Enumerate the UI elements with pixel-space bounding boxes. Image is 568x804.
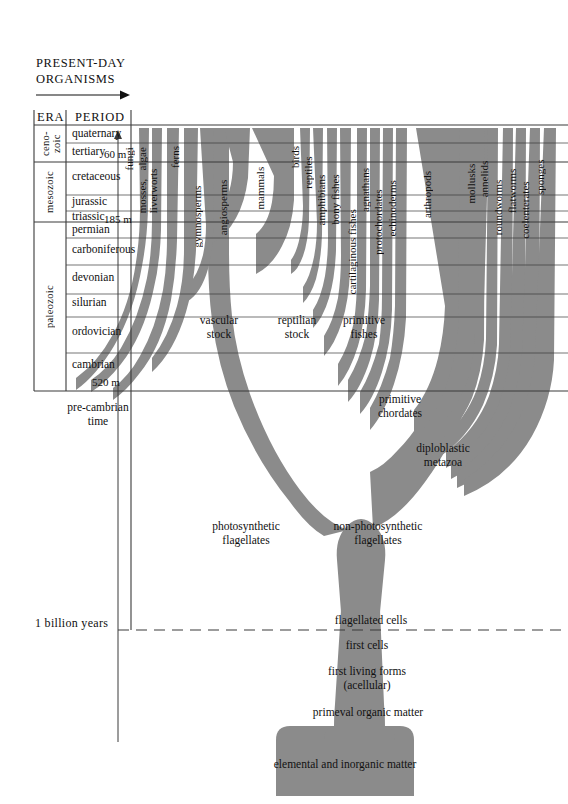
period-label-cambrian: cambrian xyxy=(72,358,115,370)
organism-label-mollusks: mollusks xyxy=(466,164,477,204)
inner-label-elemental-inorganic-matter: elemental and inorganic matter xyxy=(245,757,445,771)
era-label-cenozoic: ceno-​zoic xyxy=(40,127,62,161)
period-label-triassic: triassic xyxy=(72,210,105,222)
period-label-ordovician: ordovician xyxy=(72,325,121,337)
period-label-permian: permian xyxy=(72,223,110,235)
organism-label-fungi: fungi xyxy=(124,147,135,170)
period-label-silurian: silurian xyxy=(72,296,107,308)
organism-label-mammals: mammals xyxy=(255,167,266,210)
one-billion-years-label: 1 billion years xyxy=(35,616,108,631)
period-age-cambrian: 520 m xyxy=(92,376,120,388)
organism-label-cartilaginous-fishes: cartilaginous fishes xyxy=(347,209,358,294)
page-title-line2: ORGANISMS xyxy=(36,72,115,87)
organism-label-birds: birds xyxy=(290,146,301,168)
inner-label-first-living-forms: first living forms(acellular) xyxy=(307,664,427,692)
era-label-paleozoic: paleozoic xyxy=(44,225,58,389)
page-title: PRESENT-DAY xyxy=(36,56,126,71)
organism-label-bony-fishes: bony fishes xyxy=(330,174,341,224)
period-label-cretaceous: cretaceous xyxy=(72,170,121,182)
organism-label-algae: algae xyxy=(137,147,148,170)
period-label-jurassic: jurassic xyxy=(72,195,107,207)
organism-label-ferns: ferns xyxy=(170,146,181,168)
precambrian-label: pre-cambriantime xyxy=(38,400,158,428)
organism-label-arthropods: arthropods xyxy=(422,171,433,218)
era-label-mesozoic: mesozoic xyxy=(44,164,58,220)
organism-label-agnathans: agnathans xyxy=(360,168,371,212)
inner-label-primitive-fishes: primitivefishes xyxy=(333,313,395,341)
period-label-quaternary: quaternary xyxy=(72,127,121,139)
era-column-header: ERA xyxy=(37,110,64,125)
period-label-devonian: devonian xyxy=(72,271,114,283)
organism-label-coelenterates: coelenterates xyxy=(520,181,531,238)
period-label-carboniferous: carboniferous xyxy=(72,243,135,255)
inner-label-reptilian-stock: reptilianstock xyxy=(266,313,328,341)
present-day-arrow xyxy=(36,91,130,100)
organism-label-echinoderms: echinoderms xyxy=(387,180,398,236)
inner-label-first-cells: first cells xyxy=(332,638,402,652)
organism-label-roundworms: roundworms xyxy=(493,180,504,236)
organism-label-amphibians: amphibians xyxy=(316,175,327,226)
inner-label-diploblastic-metazoa: diploblasticmetazoa xyxy=(400,441,486,469)
organism-label-angiosperms: angiosperms xyxy=(218,180,229,236)
inner-label-vascular-stock: vascularstock xyxy=(188,313,250,341)
organism-label-flatworms: flatworms xyxy=(507,169,518,214)
period-column-header: PERIOD xyxy=(75,110,125,125)
inner-label-primeval-organic-matter: primeval organic matter xyxy=(290,705,446,719)
period-label-tertiary: tertiary xyxy=(72,145,105,157)
organism-label-gymnosperms: gymnosperms xyxy=(192,186,203,248)
evolution-tree-diagram: PRESENT-DAY ORGANISMS ERA PERIOD ceno-​z… xyxy=(0,0,568,804)
organism-label-reptiles: reptiles xyxy=(303,156,314,188)
inner-label-nonphotosynthetic-flagellates: non-photosyntheticflagellates xyxy=(313,519,443,547)
inner-label-primitive-chordates: primitivechordates xyxy=(355,392,445,420)
inner-label-photosynthetic-flagellates: photosyntheticflagellates xyxy=(192,519,300,547)
inner-label-flagellated-cells: flagellated cells xyxy=(323,613,419,627)
organism-label-annelids: annelids xyxy=(479,161,490,198)
organism-label-sponges: sponges xyxy=(535,159,546,194)
organism-label-mosses-liverworts: mosses,liverworts xyxy=(137,169,161,214)
organism-label-protochordates: protochordates xyxy=(373,189,384,254)
